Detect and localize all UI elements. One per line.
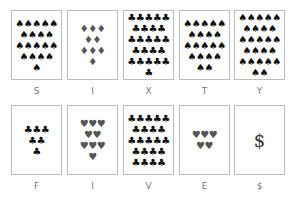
spade-icon: ♠ bbox=[255, 12, 264, 23]
heart-icon: ♥ bbox=[80, 140, 89, 151]
club-icon: ♣ bbox=[144, 67, 153, 78]
spade-icon: ♠ bbox=[49, 18, 58, 29]
club-icon: ♣ bbox=[24, 124, 33, 135]
spade-icon: ♠ bbox=[28, 51, 37, 62]
spade-icon: ♠ bbox=[213, 29, 222, 40]
card-label: S bbox=[11, 86, 62, 96]
club-icon: ♣ bbox=[144, 113, 153, 124]
spade-icon: ♠ bbox=[192, 40, 201, 51]
spade-icon: ♠ bbox=[272, 34, 281, 45]
club-icon: ♣ bbox=[41, 124, 50, 135]
club-icon: ♣ bbox=[149, 45, 158, 56]
diamond-icon: ♦ bbox=[80, 45, 89, 56]
club-icon: ♣ bbox=[157, 23, 166, 34]
club-icon: ♣ bbox=[127, 34, 136, 45]
club-icon: ♣ bbox=[136, 113, 145, 124]
club-icon: ♣ bbox=[157, 157, 166, 168]
club-icon: ♣ bbox=[28, 135, 37, 146]
spade-icon: ♠ bbox=[217, 40, 226, 51]
card-6[interactable]: ♣♣♣♣♣♣ bbox=[11, 105, 62, 175]
diamond-icon: ♦ bbox=[80, 23, 89, 34]
spade-icon: ♠ bbox=[251, 67, 260, 78]
card-label: V bbox=[123, 181, 174, 191]
club-icon: ♣ bbox=[140, 157, 149, 168]
spade-icon: ♠ bbox=[268, 23, 277, 34]
spade-icon: ♠ bbox=[41, 18, 50, 29]
spade-icon: ♠ bbox=[255, 56, 264, 67]
club-icon: ♣ bbox=[144, 34, 153, 45]
card-4[interactable]: ♠♠♠♠♠♠♠♠♠♠♠♠♠♠♠♠♠♠♠♠ bbox=[179, 10, 230, 80]
spade-icon: ♠ bbox=[251, 45, 260, 56]
heart-icon: ♥ bbox=[88, 151, 97, 162]
club-icon: ♣ bbox=[153, 56, 162, 67]
spade-icon: ♠ bbox=[272, 56, 281, 67]
spade-icon: ♠ bbox=[196, 29, 205, 40]
heart-icon: ♥ bbox=[200, 129, 209, 140]
card-1[interactable]: ♠♠♠♠♠♠♠♠♠♠♠♠♠♠♠♠♠♠♠ bbox=[11, 10, 62, 80]
heart-icon: ♥ bbox=[80, 118, 89, 129]
card-label: I bbox=[67, 181, 118, 191]
card-9[interactable]: ♥♥♥♥♥ bbox=[179, 105, 230, 175]
club-icon: ♣ bbox=[132, 23, 141, 34]
card-label: F bbox=[11, 181, 62, 191]
heart-icon: ♥ bbox=[209, 129, 218, 140]
spade-icon: ♠ bbox=[247, 56, 256, 67]
spade-icon: ♠ bbox=[205, 29, 214, 40]
club-icon: ♣ bbox=[153, 135, 162, 146]
spade-icon: ♠ bbox=[200, 18, 209, 29]
spade-icon: ♠ bbox=[192, 18, 201, 29]
card-label: X bbox=[123, 86, 174, 96]
diamond-icon: ♦ bbox=[84, 34, 93, 45]
spade-icon: ♠ bbox=[37, 29, 46, 40]
card-8[interactable]: ♣♣♣♣♣♣♣♣♣♣♣♣♣♣♣♣♣♣♣♣♣♣ bbox=[123, 105, 174, 175]
club-icon: ♣ bbox=[32, 124, 41, 135]
spade-icon: ♠ bbox=[32, 40, 41, 51]
spade-icon: ♠ bbox=[49, 40, 58, 51]
spade-icon: ♠ bbox=[15, 18, 24, 29]
heart-icon: ♥ bbox=[93, 129, 102, 140]
club-icon: ♣ bbox=[136, 135, 145, 146]
spade-icon: ♠ bbox=[24, 18, 33, 29]
card-3[interactable]: ♣♣♣♣♣♣♣♣♣♣♣♣♣♣♣♣♣♣♣♣♣♣♣♣ bbox=[123, 10, 174, 80]
spade-icon: ♠ bbox=[32, 18, 41, 29]
club-icon: ♣ bbox=[157, 45, 166, 56]
spade-icon: ♠ bbox=[247, 34, 256, 45]
club-icon: ♣ bbox=[144, 135, 153, 146]
spade-icon: ♠ bbox=[45, 51, 54, 62]
diamond-icon: ♦ bbox=[88, 56, 97, 67]
spade-icon: ♠ bbox=[183, 40, 192, 51]
club-icon: ♣ bbox=[37, 135, 46, 146]
heart-icon: ♥ bbox=[97, 118, 106, 129]
club-icon: ♣ bbox=[157, 146, 166, 157]
spade-icon: ♠ bbox=[188, 51, 197, 62]
club-icon: ♣ bbox=[157, 124, 166, 135]
card-2[interactable]: ♦♦♦♦♦♦♦♦♦ bbox=[67, 10, 118, 80]
spade-icon: ♠ bbox=[205, 51, 214, 62]
diamond-icon: ♦ bbox=[97, 23, 106, 34]
card-7[interactable]: ♥♥♥♥♥♥♥♥♥ bbox=[67, 105, 118, 175]
club-icon: ♣ bbox=[127, 56, 136, 67]
spade-icon: ♠ bbox=[264, 56, 273, 67]
diamond-icon: ♦ bbox=[88, 45, 97, 56]
club-icon: ♣ bbox=[127, 12, 136, 23]
spade-icon: ♠ bbox=[37, 51, 46, 62]
card-5[interactable]: ♠♠♠♠♠♠♠♠♠♠♠♠♠♠♠♠♠♠♠♠♠♠♠♠♠ bbox=[234, 10, 285, 80]
spade-icon: ♠ bbox=[272, 12, 281, 23]
spade-icon: ♠ bbox=[238, 56, 247, 67]
spade-icon: ♠ bbox=[238, 34, 247, 45]
club-icon: ♣ bbox=[153, 113, 162, 124]
spade-icon: ♠ bbox=[196, 51, 205, 62]
spade-icon: ♠ bbox=[188, 29, 197, 40]
card-10[interactable]: $ bbox=[234, 105, 285, 175]
heart-icon: ♥ bbox=[88, 118, 97, 129]
spade-icon: ♠ bbox=[209, 40, 218, 51]
card-label: I bbox=[67, 86, 118, 96]
club-icon: ♣ bbox=[127, 113, 136, 124]
club-icon: ♣ bbox=[161, 135, 170, 146]
heart-icon: ♥ bbox=[88, 140, 97, 151]
spade-icon: ♠ bbox=[243, 23, 252, 34]
heart-icon: ♥ bbox=[84, 129, 93, 140]
spade-icon: ♠ bbox=[238, 12, 247, 23]
heart-icon: ♥ bbox=[196, 140, 205, 151]
club-icon: ♣ bbox=[140, 124, 149, 135]
